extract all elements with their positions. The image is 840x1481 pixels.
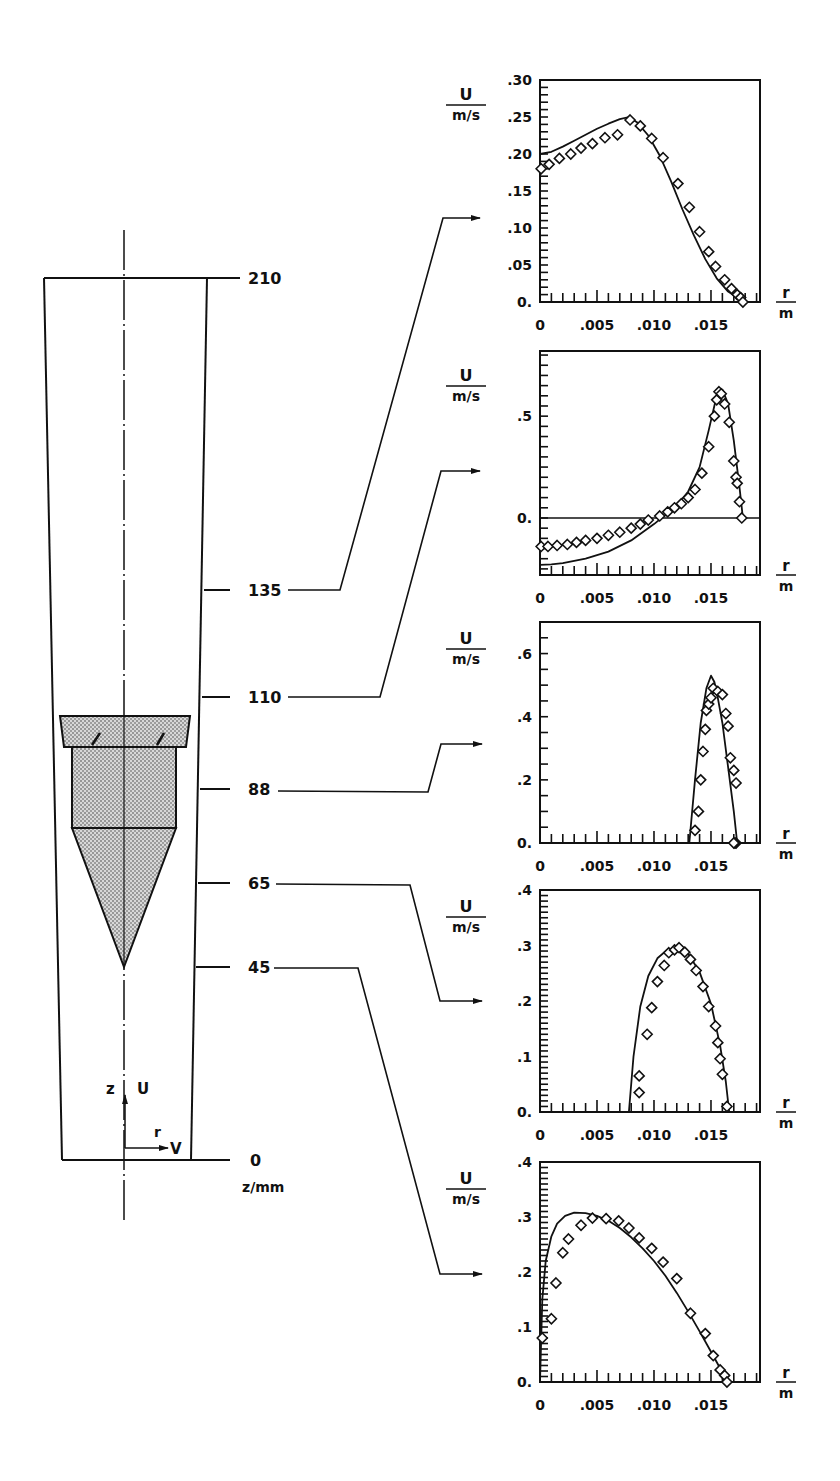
tube-wall-right	[191, 278, 207, 1160]
y-tick-label: .15	[507, 183, 532, 199]
x-tick-label: .005	[580, 317, 615, 333]
y-tick-label: .2	[517, 1264, 532, 1280]
measured-point-diamond-icon	[721, 709, 731, 719]
y-axis-label-denominator: m/s	[452, 1191, 480, 1207]
swirl-body	[60, 716, 190, 967]
measured-point-diamond-icon	[711, 1021, 721, 1031]
measured-point-diamond-icon	[600, 133, 610, 143]
station-label-45: 45	[248, 958, 270, 977]
measured-point-diamond-icon	[729, 765, 739, 775]
connector-88	[278, 744, 482, 792]
measured-point-diamond-icon	[625, 115, 635, 125]
measured-point-diamond-icon	[731, 778, 741, 788]
measured-point-diamond-icon	[576, 1220, 586, 1230]
station-label-110: 110	[248, 688, 281, 707]
y-tick-label: .4	[517, 709, 532, 725]
x-tick-label: 0	[535, 858, 545, 874]
measured-point-diamond-icon	[634, 1088, 644, 1098]
coord-label-u: U	[137, 1080, 149, 1098]
computed-profile-line	[540, 117, 745, 302]
x-tick-label: .005	[580, 590, 615, 606]
measured-point-diamond-icon	[615, 527, 625, 537]
y-axis-label-denominator: m/s	[452, 651, 480, 667]
coord-label-v: V	[170, 1140, 182, 1158]
x-tick-label: .010	[637, 858, 672, 874]
measured-point-diamond-icon	[652, 977, 662, 987]
x-axis-label-numerator: r	[782, 1094, 790, 1112]
station-label-65: 65	[248, 874, 270, 893]
x-axis-label-numerator: r	[782, 284, 790, 302]
y-axis-label-numerator: U	[460, 629, 473, 648]
x-axis-label-denominator: m	[779, 846, 794, 862]
measured-point-diamond-icon	[647, 1003, 657, 1013]
x-tick-label: .015	[694, 317, 729, 333]
measured-point-diamond-icon	[673, 179, 683, 189]
measured-point-diamond-icon	[724, 417, 734, 427]
measured-point-diamond-icon	[576, 143, 586, 153]
coordinate-indicator	[125, 1095, 168, 1148]
measured-point-diamond-icon	[566, 149, 576, 159]
x-tick-label: 0	[535, 590, 545, 606]
plot-frame	[540, 1162, 760, 1382]
figure-canvas: z U r V 210 135 110 88 65 45 0 z/mm .30.…	[0, 0, 840, 1481]
y-axis-label-denominator: m/s	[452, 107, 480, 123]
y-tick-label: .3	[517, 938, 532, 954]
x-axis-label-numerator: r	[782, 557, 790, 575]
x-tick-label: .010	[637, 590, 672, 606]
x-tick-label: 0	[535, 1397, 545, 1413]
x-tick-label: 0	[535, 1127, 545, 1143]
measured-point-diamond-icon	[696, 775, 706, 785]
measured-point-diamond-icon	[562, 539, 572, 549]
y-tick-label: 0.	[517, 510, 532, 526]
profile-chart-3: .6.4.20.0.005.010.015Um/srm	[446, 622, 796, 874]
coord-label-r: r	[154, 1124, 161, 1140]
measured-point-diamond-icon	[723, 721, 733, 731]
measured-point-diamond-icon	[571, 537, 581, 547]
measured-point-diamond-icon	[626, 523, 636, 533]
x-tick-label: .005	[580, 858, 615, 874]
y-axis-label-numerator: U	[460, 85, 473, 104]
x-axis-label-denominator: m	[779, 305, 794, 321]
station-label-135: 135	[248, 581, 281, 600]
y-tick-label: .3	[517, 1209, 532, 1225]
y-tick-label: .10	[507, 220, 532, 236]
connector-45	[274, 968, 482, 1274]
measured-point-diamond-icon	[647, 1243, 657, 1253]
measured-point-diamond-icon	[613, 130, 623, 140]
measured-point-diamond-icon	[592, 533, 602, 543]
plot-frame	[540, 622, 760, 843]
measured-point-diamond-icon	[704, 247, 714, 257]
measured-point-diamond-icon	[693, 806, 703, 816]
x-tick-label: .010	[637, 317, 672, 333]
measured-point-diamond-icon	[658, 1257, 668, 1267]
x-axis-label-numerator: r	[782, 1364, 790, 1382]
x-tick-label: .015	[694, 858, 729, 874]
measured-point-diamond-icon	[581, 535, 591, 545]
x-tick-label: .015	[694, 1397, 729, 1413]
x-axis-label-denominator: m	[779, 1115, 794, 1131]
measured-point-diamond-icon	[554, 153, 564, 163]
station-label-0: 0	[250, 1151, 261, 1170]
measured-point-diamond-icon	[563, 1234, 573, 1244]
x-tick-label: .005	[580, 1397, 615, 1413]
apparatus-diagram	[44, 230, 240, 1220]
measured-point-diamond-icon	[558, 1248, 568, 1258]
y-tick-label: .4	[517, 882, 532, 898]
y-tick-label: .4	[517, 1154, 532, 1170]
measured-point-diamond-icon	[603, 530, 613, 540]
connector-135	[288, 218, 480, 590]
measured-point-diamond-icon	[722, 1101, 732, 1111]
measured-point-diamond-icon	[708, 1351, 718, 1361]
coord-label-z: z	[106, 1080, 115, 1098]
y-axis-label-numerator: U	[460, 1169, 473, 1188]
y-tick-label: .5	[517, 408, 532, 424]
measured-point-diamond-icon	[713, 1038, 723, 1048]
figure-svg: z U r V 210 135 110 88 65 45 0 z/mm .30.…	[0, 0, 840, 1481]
y-tick-label: .1	[517, 1319, 532, 1335]
y-axis-label-numerator: U	[460, 897, 473, 916]
y-tick-label: .05	[507, 257, 532, 273]
y-axis-label-numerator: U	[460, 366, 473, 385]
profile-chart-4: .4.3.2.10.0.005.010.015Um/srm	[446, 882, 796, 1143]
y-tick-label: .2	[517, 772, 532, 788]
plot-frame	[540, 890, 760, 1112]
